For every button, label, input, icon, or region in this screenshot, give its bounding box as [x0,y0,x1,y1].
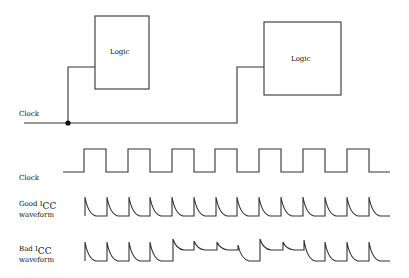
clock-branch-left [68,67,95,123]
bad-icc-label: Bad ICC [19,244,52,253]
clock-waveform-label: Clock [19,174,39,182]
bad-icc-label-prefix: Bad I [19,245,38,253]
logic-right-label: Logic [291,55,311,63]
diagram-canvas [0,0,409,278]
clock-net-label: Clock [19,110,39,118]
good-icc-label-sub: CC [43,201,57,211]
bad-icc-waveform [85,239,390,261]
bad-icc-label-sub: CC [38,246,52,256]
clock-net-wire [24,67,264,123]
clock-waveform [63,149,390,172]
good-icc-waveform [85,197,390,216]
good-icc-label-line2: waveform [19,211,54,219]
logic-left-label: Logic [110,48,130,56]
bad-icc-label-line2: waveform [19,256,54,264]
clock-junction-dot [65,120,70,125]
good-icc-label: Good ICC [19,199,56,208]
good-icc-label-prefix: Good I [19,200,43,208]
